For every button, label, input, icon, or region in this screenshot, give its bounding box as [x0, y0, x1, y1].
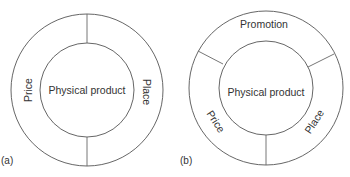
segment-label-promotion-b: Promotion [240, 18, 288, 30]
center-label-b: Physical product [227, 86, 304, 98]
marketing-mix-diagram: Physical product Price Place (a) Physica… [0, 0, 350, 177]
divider-left-b [198, 51, 223, 64]
segment-label-place-a: Place [141, 79, 153, 105]
divider-right-b [308, 54, 334, 67]
panel-label-b: (b) [180, 155, 192, 166]
center-label-a: Physical product [48, 84, 125, 96]
segment-label-place-b: Place [302, 107, 326, 136]
panel-label-a: (a) [1, 155, 13, 166]
segment-label-price-b: Price [204, 108, 227, 135]
panel-b: Physical product Promotion Price Place (… [180, 11, 343, 166]
segment-label-price-a: Price [22, 78, 34, 102]
panel-a: Physical product Price Place (a) [1, 14, 163, 166]
